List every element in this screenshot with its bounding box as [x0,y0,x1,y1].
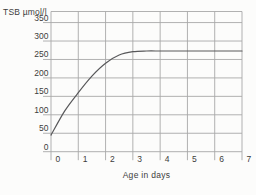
x-tick-label: 1 [83,154,88,164]
y-tick-label: 0 [44,142,49,152]
y-tick-label: 100 [34,105,48,115]
y-tick-label: 250 [34,49,48,59]
x-tick-label: 3 [137,154,142,164]
x-axis-title: Age in days [51,170,242,180]
plot-area: 05010015020025030035001234567 [0,0,256,195]
y-tick-label: 350 [34,13,48,23]
y-tick-label: 300 [34,31,48,41]
y-tick-label: 50 [39,123,49,133]
tsb-chart: TSB µmol/l 05010015020025030035001234567… [0,0,256,195]
x-tick-label: 5 [192,154,197,164]
y-tick-label: 200 [34,68,48,78]
x-tick-label: 0 [56,154,61,164]
y-tick-label: 150 [34,86,48,96]
x-tick-label: 4 [165,154,170,164]
x-tick-label: 7 [247,154,252,164]
tsb-curve [51,51,242,135]
x-tick-label: 2 [110,154,115,164]
x-tick-label: 6 [219,154,224,164]
